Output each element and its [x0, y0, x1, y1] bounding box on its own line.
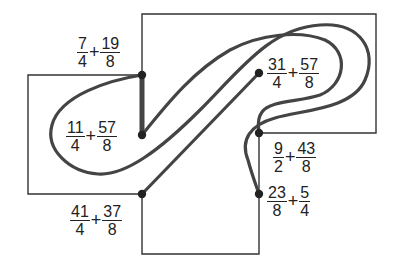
fraction: 5 4	[299, 184, 310, 219]
plus-sign: +	[288, 63, 299, 84]
label-point-b: 11 4 + 57 8	[66, 119, 117, 154]
plus-sign: +	[86, 126, 97, 147]
fraction: 7 4	[77, 35, 88, 70]
denominator: 4	[77, 53, 88, 70]
point-d-dot[interactable]	[255, 69, 263, 77]
fraction: 11 4	[66, 119, 85, 154]
plus-sign: +	[285, 147, 296, 168]
fraction: 41 4	[70, 203, 90, 238]
fraction: 31 4	[267, 56, 287, 91]
denominator: 8	[107, 221, 118, 238]
point-b-dot[interactable]	[138, 131, 146, 139]
numerator: 43	[296, 140, 316, 158]
denominator: 8	[102, 137, 113, 154]
fraction: 9 2	[273, 140, 284, 175]
numerator: 23	[267, 184, 287, 202]
numerator: 57	[299, 56, 319, 74]
fraction: 57 8	[299, 56, 319, 91]
point-f-dot[interactable]	[255, 190, 263, 198]
denominator: 2	[273, 158, 284, 175]
numerator: 31	[267, 56, 287, 74]
label-point-a: 7 4 + 19 8	[77, 35, 120, 70]
label-point-f: 23 8 + 5 4	[267, 184, 310, 219]
denominator: 8	[105, 53, 116, 70]
label-point-c: 41 4 + 37 8	[70, 203, 122, 238]
fraction: 43 8	[296, 140, 316, 175]
denominator: 4	[70, 137, 81, 154]
fraction: 57 8	[97, 119, 117, 154]
label-point-e: 9 2 + 43 8	[273, 140, 316, 175]
numerator: 57	[97, 119, 117, 137]
plus-sign: +	[89, 42, 100, 63]
label-point-d: 31 4 + 57 8	[267, 56, 319, 91]
denominator: 8	[304, 74, 315, 91]
fraction: 23 8	[267, 184, 287, 219]
numerator: 41	[70, 203, 90, 221]
denominator: 8	[301, 158, 312, 175]
path-c-d	[142, 73, 259, 194]
numerator: 5	[299, 184, 310, 202]
point-a-dot[interactable]	[138, 71, 146, 79]
denominator: 8	[271, 202, 282, 219]
numerator: 7	[77, 35, 88, 53]
plus-sign: +	[91, 210, 102, 231]
numerator: 19	[100, 35, 120, 53]
numerator: 11	[66, 119, 85, 137]
point-c-dot[interactable]	[138, 190, 146, 198]
diagram-canvas	[0, 0, 395, 267]
bottom-box	[142, 133, 259, 254]
plus-sign: +	[288, 191, 299, 212]
denominator: 4	[299, 202, 310, 219]
denominator: 4	[74, 221, 85, 238]
fraction: 19 8	[100, 35, 120, 70]
point-e-dot[interactable]	[255, 129, 263, 137]
denominator: 4	[271, 74, 282, 91]
numerator: 9	[273, 140, 284, 158]
numerator: 37	[102, 203, 122, 221]
fraction: 37 8	[102, 203, 122, 238]
